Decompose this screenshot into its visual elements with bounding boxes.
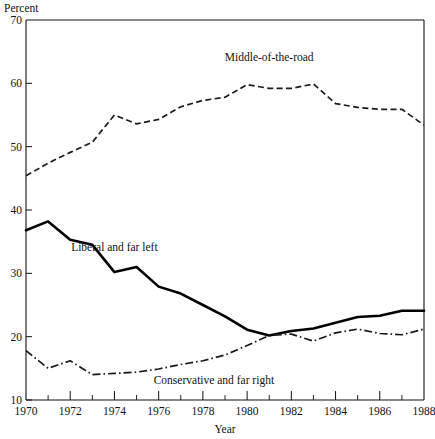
x-tick-label: 1988: [413, 405, 435, 417]
line-chart: Percent 10203040506070 19701972197419761…: [0, 0, 435, 439]
y-tick-label: 20: [11, 331, 23, 343]
x-tick-label: 1972: [59, 405, 82, 417]
y-tick-label: 60: [11, 77, 23, 89]
x-tick-label: 1974: [103, 405, 126, 417]
series-label-liberal-and-far-left: Liberal and far left: [71, 241, 158, 253]
x-tick-label: 1980: [236, 405, 259, 417]
x-tick-label: 1984: [324, 405, 347, 417]
y-axis-title: Percent: [4, 2, 39, 14]
x-axis-ticks: [48, 391, 402, 400]
series-line-conservative-and-far-right: [26, 329, 424, 375]
y-tick-label: 50: [11, 141, 23, 153]
y-tick-label: 30: [11, 267, 23, 279]
x-tick-label: 1976: [147, 405, 170, 417]
axes-frame: [26, 20, 424, 400]
series-line-middle-of-the-road: [26, 84, 424, 176]
x-tick-label: 1978: [191, 405, 214, 417]
y-axis-tick-labels: 10203040506070: [11, 14, 23, 406]
series-label-conservative-and-far-right: Conservative and far right: [154, 374, 275, 387]
series-line-liberal-and-far-left: [26, 221, 424, 335]
x-axis-tick-labels: 1970197219741976197819801982198419861988: [15, 405, 435, 417]
y-tick-label: 70: [11, 14, 23, 26]
series-label-middle-of-the-road: Middle-of-the-road: [225, 51, 314, 63]
x-tick-label: 1970: [15, 405, 38, 417]
chart-container: Percent 10203040506070 19701972197419761…: [0, 0, 435, 439]
x-tick-label: 1982: [280, 405, 303, 417]
x-tick-label: 1986: [368, 405, 391, 417]
y-tick-label: 40: [11, 204, 23, 216]
x-axis-title: Year: [214, 423, 235, 435]
